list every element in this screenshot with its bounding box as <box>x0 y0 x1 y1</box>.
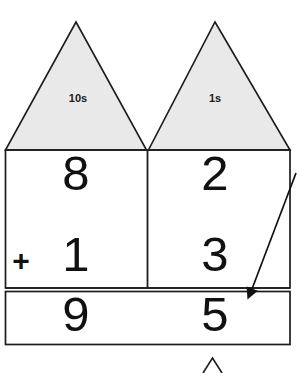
plus-operator-sign: + <box>12 244 30 277</box>
addend-grid <box>6 150 291 288</box>
addend-2-ones-digit: 3 <box>201 227 228 281</box>
tens-place-triangle <box>6 22 147 150</box>
sum-box-outline <box>6 292 291 345</box>
place-value-addition-worksheet: 10s 1s 8 2 + 1 3 9 5 <box>0 0 297 373</box>
partial-triangle-caret <box>203 358 222 373</box>
sum-tens-digit: 9 <box>62 287 89 341</box>
sum-ones-digit: 5 <box>201 287 228 341</box>
ones-place-triangle <box>149 22 291 150</box>
answer-pointer-arrow <box>247 173 296 300</box>
addend-1-tens-digit: 8 <box>62 146 89 200</box>
addend-1-ones-digit: 2 <box>201 146 228 200</box>
ones-place-label: 1s <box>209 92 221 104</box>
tens-place-label: 10s <box>69 92 87 104</box>
place-value-triangles <box>6 22 291 150</box>
addend-2-tens-digit: 1 <box>62 227 89 281</box>
worksheet-canvas: 10s 1s 8 2 + 1 3 9 5 <box>0 0 297 373</box>
